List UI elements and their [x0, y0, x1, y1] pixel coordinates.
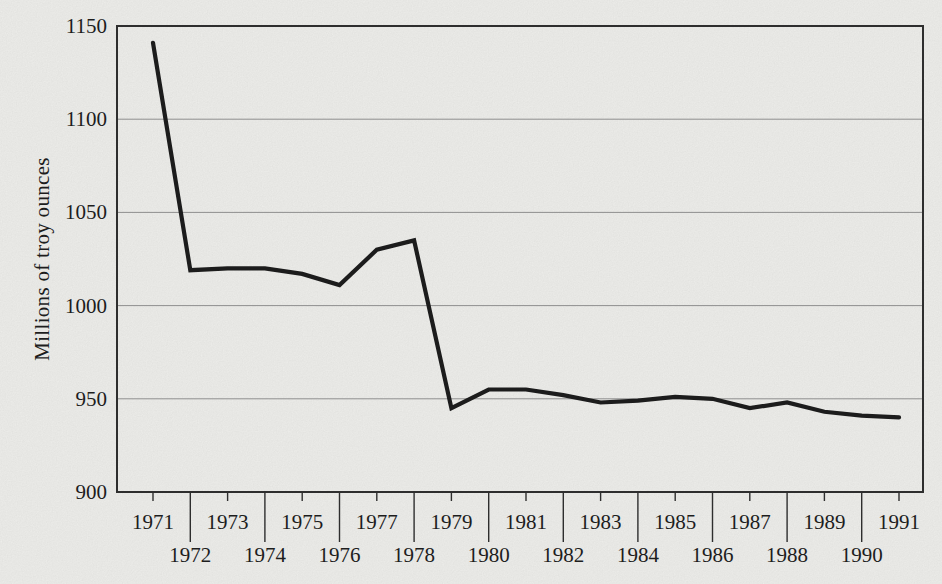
x-tick-label: 1987: [729, 510, 771, 534]
line-chart-figure: 9009501000105011001150197119721973197419…: [0, 0, 942, 584]
x-tick-label: 1971: [132, 510, 174, 534]
x-tick-label: 1972: [169, 543, 211, 567]
chart-canvas: 9009501000105011001150197119721973197419…: [0, 0, 942, 584]
y-tick-label: 1100: [66, 107, 107, 131]
x-tick-label: 1978: [393, 543, 435, 567]
x-tick-label: 1982: [542, 543, 584, 567]
x-tick-label: 1976: [319, 543, 361, 567]
x-tick-label: 1986: [692, 543, 734, 567]
x-tick-label: 1991: [878, 510, 920, 534]
x-tick-label: 1980: [468, 543, 510, 567]
x-tick-label: 1988: [766, 543, 808, 567]
x-tick-label: 1975: [281, 510, 323, 534]
x-tick-label: 1990: [841, 543, 883, 567]
y-tick-label: 950: [76, 387, 108, 411]
y-tick-label: 900: [76, 480, 108, 504]
x-tick-label: 1983: [580, 510, 622, 534]
x-tick-label: 1973: [207, 510, 249, 534]
x-tick-label: 1985: [654, 510, 696, 534]
x-tick-label: 1979: [430, 510, 472, 534]
paper-texture: [0, 0, 942, 584]
y-axis-title: Millions of troy ounces: [30, 157, 55, 360]
x-tick-label: 1974: [244, 543, 287, 567]
x-tick-label: 1984: [617, 543, 660, 567]
y-tick-label: 1050: [65, 200, 107, 224]
y-tick-label: 1000: [65, 294, 107, 318]
x-tick-label: 1977: [356, 510, 398, 534]
y-tick-label: 1150: [66, 14, 107, 38]
x-tick-label: 1989: [803, 510, 845, 534]
x-tick-label: 1981: [505, 510, 547, 534]
